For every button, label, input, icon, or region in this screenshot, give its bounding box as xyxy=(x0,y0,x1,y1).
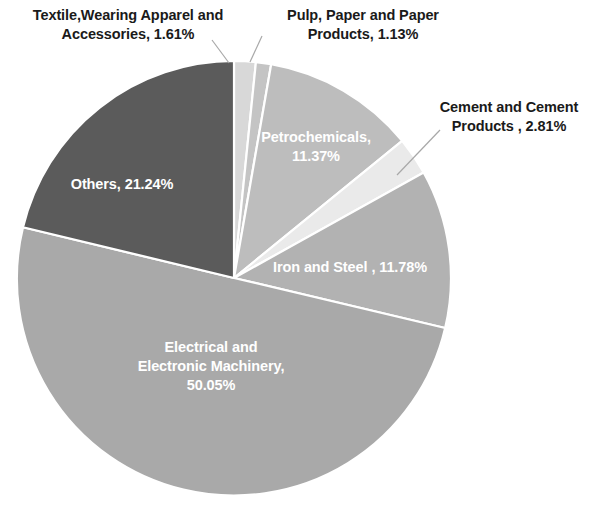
slice-label-others: Others, 21.24% xyxy=(36,175,208,194)
slice-label-petrochemicals: Petrochemicals, 11.37% xyxy=(238,128,394,166)
pie-chart: Textile,Wearing Apparel and Accessories,… xyxy=(0,0,598,517)
slice-label-pulp: Pulp, Paper and Paper Products, 1.13% xyxy=(258,6,468,44)
slice-label-iron-and-steel: Iron and Steel , 11.78% xyxy=(248,258,452,277)
slice-label-electrical-and-electronic-machinery: Electrical and Electronic Machinery, 50.… xyxy=(98,338,324,395)
pie-slice-group xyxy=(17,61,451,496)
slice-label-cement: Cement and Cement Products , 2.81% xyxy=(420,98,598,136)
slice-label-textile: Textile,Wearing Apparel and Accessories,… xyxy=(2,6,254,44)
